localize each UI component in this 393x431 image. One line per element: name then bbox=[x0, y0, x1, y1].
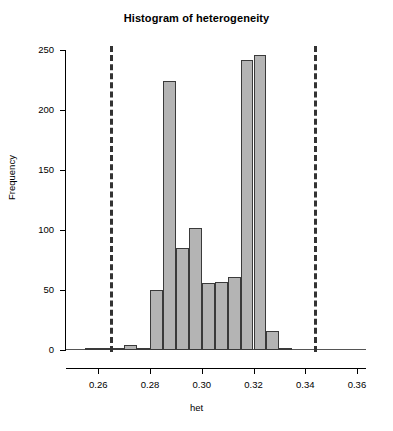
y-axis-tick-label: 150 bbox=[38, 165, 54, 175]
lower-threshold-line bbox=[110, 46, 113, 352]
x-axis-tick-label: 0.36 bbox=[348, 380, 367, 390]
histogram-bar bbox=[163, 81, 176, 350]
x-axis-tick bbox=[254, 368, 255, 374]
histogram-bar bbox=[228, 277, 241, 350]
x-axis-tick-label: 0.28 bbox=[141, 380, 160, 390]
histogram-bar bbox=[254, 55, 267, 350]
y-axis-label: Frequency bbox=[6, 155, 17, 200]
histogram-bar bbox=[85, 348, 98, 350]
x-axis: 0.260.280.300.320.340.36 bbox=[66, 368, 366, 378]
y-axis-tick-label: 50 bbox=[43, 285, 54, 295]
histogram-bar bbox=[189, 228, 202, 350]
upper-threshold-line bbox=[314, 46, 317, 352]
histogram-bar bbox=[279, 348, 292, 350]
histogram-bar bbox=[215, 282, 228, 350]
histogram-bar bbox=[150, 290, 163, 350]
histogram-bar bbox=[124, 345, 137, 350]
x-axis-tick bbox=[150, 368, 151, 374]
x-axis-tick-label: 0.26 bbox=[89, 380, 108, 390]
histogram-bar bbox=[266, 331, 279, 350]
y-axis-tick-label: 250 bbox=[38, 45, 54, 55]
x-axis-tick bbox=[305, 368, 306, 374]
plot-area bbox=[66, 50, 366, 350]
histogram-figure: Histogram of heterogeneity 0501001502002… bbox=[0, 0, 393, 431]
y-axis-tick-label: 100 bbox=[38, 225, 54, 235]
histogram-bar bbox=[202, 283, 215, 350]
histogram-bar bbox=[176, 248, 189, 350]
x-axis-line bbox=[66, 368, 366, 369]
x-axis-tick-label: 0.32 bbox=[244, 380, 263, 390]
histogram-bar bbox=[241, 60, 254, 350]
y-axis-tick-label: 200 bbox=[38, 105, 54, 115]
x-axis-tick bbox=[98, 368, 99, 374]
histogram-bar bbox=[111, 348, 124, 350]
x-axis-label: het bbox=[0, 402, 393, 413]
x-axis-tick-label: 0.30 bbox=[193, 380, 212, 390]
x-axis-tick bbox=[202, 368, 203, 374]
y-axis-tick bbox=[60, 350, 66, 351]
x-axis-tick-label: 0.34 bbox=[296, 380, 315, 390]
histogram-bar bbox=[137, 348, 150, 350]
y-axis-tick-label: 0 bbox=[49, 345, 54, 355]
chart-title: Histogram of heterogeneity bbox=[0, 12, 393, 24]
x-axis-tick bbox=[357, 368, 358, 374]
y-axis: 050100150200250 bbox=[58, 46, 66, 354]
